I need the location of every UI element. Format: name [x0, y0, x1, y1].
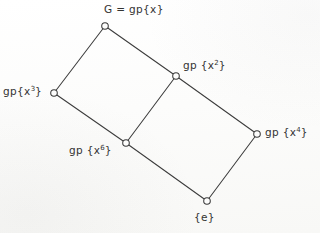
node-gpx6: [123, 140, 130, 147]
label-node-gpx4: gp {x4}: [265, 127, 308, 138]
node-gpx3: [51, 90, 58, 97]
edge-gpx2-to-gpx4: [176, 76, 257, 134]
label-node-gpx6: gp {x6}: [69, 145, 112, 156]
label-gpx4-text: gp {x: [265, 126, 296, 138]
label-identity-text: {e}: [194, 211, 215, 223]
label-gpx2-suffix: }: [219, 59, 226, 71]
lattice-edges: [54, 26, 257, 201]
label-node-G: G = gp{x}: [104, 4, 164, 15]
label-G-text: G = gp{x: [104, 3, 157, 15]
node-gpx2: [173, 73, 180, 80]
subgroup-lattice-diagram: G = gp{x} gp{x3} gp {x2} gp {x6} gp {x4}…: [0, 0, 320, 233]
label-gpx3-text: gp{x: [3, 85, 31, 97]
label-node-gpx2: gp {x2}: [183, 60, 226, 71]
edge-G-to-gpx2: [105, 26, 176, 76]
lattice-graph: [0, 0, 320, 233]
node-G: [102, 23, 109, 30]
edge-gpx6-to-identity: [126, 143, 207, 201]
edge-gpx3-to-gpx6: [54, 93, 126, 143]
edge-G-to-gpx3: [54, 26, 105, 93]
edge-gpx2-to-gpx6: [126, 76, 176, 143]
label-node-identity: {e}: [194, 212, 215, 223]
label-gpx6-suffix: }: [105, 144, 112, 156]
label-gpx2-text: gp {x: [183, 59, 214, 71]
label-gpx6-text: gp {x: [69, 144, 100, 156]
node-identity: [204, 198, 211, 205]
label-gpx3-suffix: }: [35, 85, 42, 97]
node-gpx4: [254, 131, 261, 138]
label-node-gpx3: gp{x3}: [3, 86, 42, 97]
edge-gpx4-to-identity: [207, 134, 257, 201]
label-gpx4-suffix: }: [301, 126, 308, 138]
label-G-suffix: }: [157, 3, 164, 15]
